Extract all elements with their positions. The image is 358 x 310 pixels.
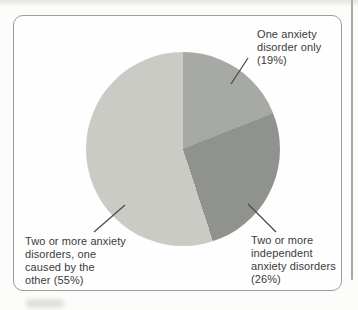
slice-label-two-or-more-caused-by-other: Two or more anxiety disorders, one cause… [25,235,126,287]
scan-artifact-top [0,0,358,7]
scan-artifact-bottom-left [26,299,64,308]
slice-label-two-or-more-independent: Two or more independent anxiety disorder… [251,234,336,286]
page: One anxiety disorder only (19%) Two or m… [0,0,358,310]
slice-label-one-anxiety-disorder-only: One anxiety disorder only (19%) [257,28,321,67]
pie-chart [86,52,280,246]
figure-frame: One anxiety disorder only (19%) Two or m… [13,15,342,291]
column-rule [351,0,353,280]
